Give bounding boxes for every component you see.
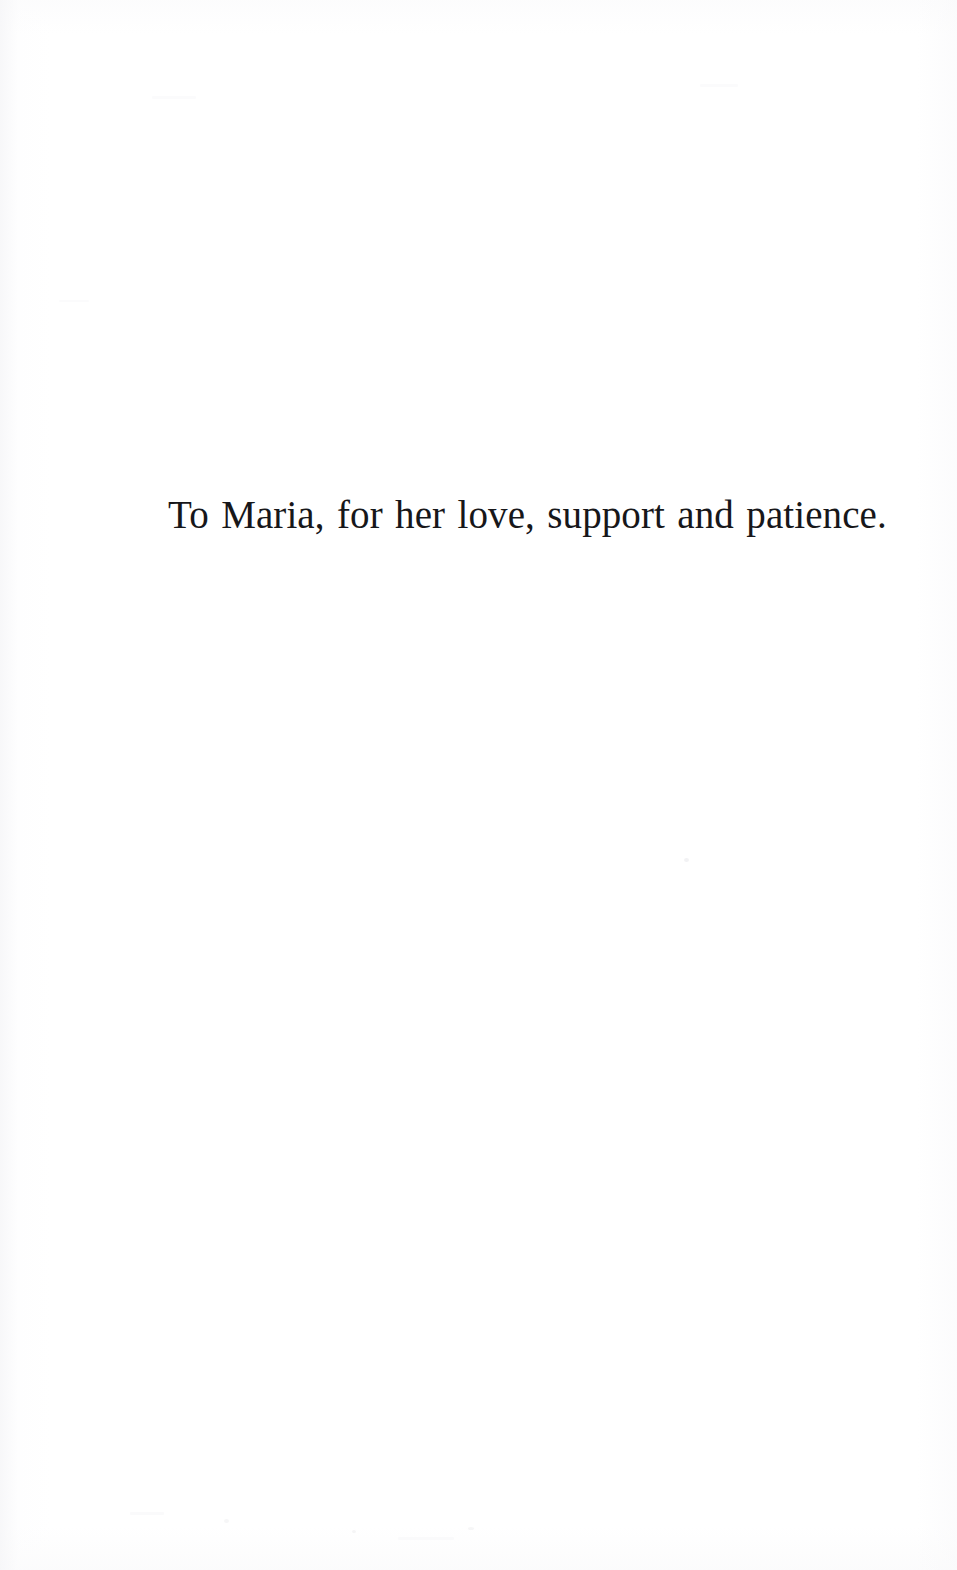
scan-dust-speck [152, 96, 196, 99]
scanned-book-page: To Maria, for her love, support and pati… [0, 0, 957, 1570]
scan-dust-speck [130, 1512, 164, 1515]
scan-dust-speck [352, 1530, 356, 1533]
scan-dust-speck [684, 858, 689, 862]
scan-dust-speck [59, 300, 89, 302]
scan-vignette [0, 0, 957, 1570]
scan-dust-speck [224, 1519, 229, 1523]
scan-dust-speck [398, 1537, 454, 1540]
dedication-text: To Maria, for her love, support and pati… [168, 491, 808, 539]
dedication-block: To Maria, for her love, support and pati… [168, 491, 808, 539]
scan-dust-speck [700, 84, 738, 87]
scan-dust-speck [468, 1527, 474, 1530]
